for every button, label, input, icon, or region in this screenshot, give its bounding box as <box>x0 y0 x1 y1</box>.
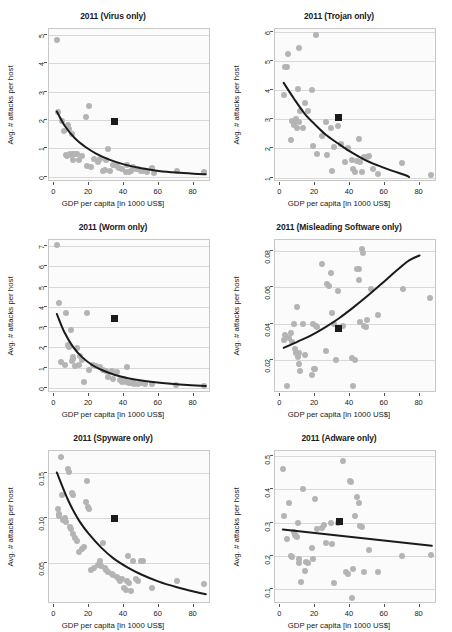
chart-panel-1: 2011 (Virus only)012345020406080GDP per … <box>0 0 226 211</box>
y-tick-label: 0.1 <box>264 588 271 598</box>
x-tick-mark <box>314 604 315 607</box>
y-tick-label: 0.10 <box>38 517 45 531</box>
y-axis-label: Avg. # attacks per host <box>232 65 241 144</box>
chart-panel-5: 2011 (Spyware only)0.050.100.15020406080… <box>0 422 226 632</box>
x-tick-mark <box>158 393 159 396</box>
x-tick-mark <box>279 393 280 396</box>
plot-area <box>48 239 210 392</box>
y-tick-label: 0 <box>38 176 45 180</box>
x-tick-mark <box>193 393 194 396</box>
x-tick-mark <box>349 182 350 185</box>
x-tick-mark <box>53 393 54 396</box>
y-tick-label: 3 <box>38 91 45 95</box>
y-tick-label: 0.3 <box>264 522 271 532</box>
y-tick-label: 0.2 <box>264 555 271 565</box>
x-tick-mark <box>384 393 385 396</box>
x-tick-label: 80 <box>173 609 213 618</box>
fit-curve <box>275 451 436 603</box>
y-tick-label: 4 <box>38 62 45 66</box>
x-tick-mark <box>158 604 159 607</box>
fit-curve <box>275 29 436 181</box>
y-tick-label: 1 <box>38 367 45 371</box>
y-tick-label: 0.15 <box>38 472 45 486</box>
x-tick-mark <box>88 393 89 396</box>
x-tick-label: 80 <box>173 398 213 407</box>
y-tick-label: 7 <box>38 245 45 249</box>
x-tick-mark <box>193 604 194 607</box>
x-tick-mark <box>419 182 420 185</box>
y-tick-label: 3 <box>264 118 271 122</box>
x-tick-mark <box>314 182 315 185</box>
y-axis-label: Avg. # attacks per host <box>232 487 241 566</box>
x-tick-mark <box>419 393 420 396</box>
y-axis-label: Avg. # attacks per host <box>232 276 241 355</box>
y-tick-label: 0.08 <box>264 250 271 264</box>
y-tick-label: 6 <box>38 265 45 269</box>
x-tick-mark <box>123 393 124 396</box>
y-tick-label: 4 <box>264 89 271 93</box>
y-tick-label: 0.4 <box>264 488 271 498</box>
x-tick-mark <box>123 182 124 185</box>
fit-curve <box>49 451 210 603</box>
plot-area <box>274 239 436 392</box>
chart-panel-4: 2011 (Misleading Software only)0.020.040… <box>226 211 452 422</box>
plot-area <box>48 28 210 181</box>
x-tick-mark <box>349 393 350 396</box>
plot-area <box>274 450 436 603</box>
x-tick-mark <box>53 604 54 607</box>
y-tick-label: 1 <box>264 177 271 181</box>
panel-title: 2011 (Worm only) <box>0 222 226 232</box>
y-tick-label: 1 <box>38 147 45 151</box>
fit-curve <box>49 29 210 181</box>
figure-panel-grid: 2011 (Virus only)012345020406080GDP per … <box>0 0 452 632</box>
y-tick-label: 0.04 <box>264 323 271 337</box>
x-tick-mark <box>384 182 385 185</box>
x-tick-mark <box>279 182 280 185</box>
y-axis-label: Avg. # attacks per host <box>6 276 15 355</box>
y-tick-label: 2 <box>38 119 45 123</box>
x-axis-label: GDP per capita [in 1000 US$] <box>226 199 452 208</box>
reference-square <box>111 515 118 522</box>
x-tick-mark <box>123 604 124 607</box>
y-axis-label: Avg. # attacks per host <box>6 65 15 144</box>
y-tick-label: 5 <box>38 34 45 38</box>
y-tick-label: 5 <box>264 60 271 64</box>
panel-title: 2011 (Trojan only) <box>226 11 452 21</box>
x-tick-label: 80 <box>173 187 213 196</box>
x-tick-label: 80 <box>399 609 439 618</box>
plot-area <box>274 28 436 181</box>
chart-panel-2: 2011 (Trojan only)123456020406080GDP per… <box>226 0 452 211</box>
x-tick-label: 80 <box>399 398 439 407</box>
y-tick-label: 0.5 <box>264 455 271 465</box>
y-tick-label: 5 <box>38 286 45 290</box>
y-tick-label: 3 <box>38 326 45 330</box>
panel-title: 2011 (Spyware only) <box>0 433 226 443</box>
fit-curve <box>49 240 210 392</box>
x-axis-label: GDP per capita [in 1000 US$] <box>226 621 452 630</box>
plot-area <box>48 450 210 603</box>
reference-square <box>111 315 118 322</box>
y-tick-label: 0.05 <box>38 562 45 576</box>
x-tick-mark <box>419 604 420 607</box>
chart-panel-6: 2011 (Adware only)0.10.20.30.40.50204060… <box>226 422 452 632</box>
y-tick-label: 6 <box>264 31 271 35</box>
x-axis-label: GDP per capita [in 1000 US$] <box>0 621 226 630</box>
x-tick-mark <box>384 604 385 607</box>
y-tick-label: 2 <box>38 346 45 350</box>
chart-panel-3: 2011 (Worm only)01234567020406080GDP per… <box>0 211 226 422</box>
x-axis-label: GDP per capita [in 1000 US$] <box>0 410 226 419</box>
y-tick-label: 2 <box>264 147 271 151</box>
reference-square <box>336 518 343 525</box>
y-tick-label: 0.06 <box>264 286 271 300</box>
x-tick-mark <box>88 182 89 185</box>
y-axis-label: Avg. # attacks per host <box>6 487 15 566</box>
y-tick-label: 4 <box>38 306 45 310</box>
reference-square <box>111 118 118 125</box>
x-axis-label: GDP per capita [in 1000 US$] <box>0 199 226 208</box>
panel-title: 2011 (Virus only) <box>0 11 226 21</box>
x-tick-mark <box>314 393 315 396</box>
panel-title: 2011 (Misleading Software only) <box>226 222 452 232</box>
reference-square <box>335 325 342 332</box>
fit-curve <box>275 240 436 392</box>
reference-square <box>335 114 342 121</box>
